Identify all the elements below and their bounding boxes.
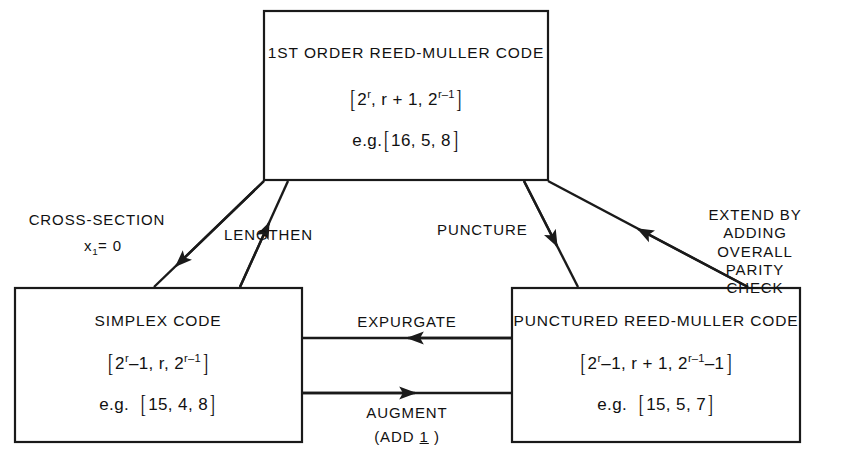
br-example-values: 15, 5, 7 <box>646 395 706 414</box>
lengthen-label: LENGTHEN <box>224 226 313 243</box>
bottom-right-box-title: PUNCTURED REED-MULLER CODE <box>513 312 798 330</box>
top-param-exp-d: r–1 <box>438 88 455 100</box>
top-example-values: 16, 5, 8 <box>391 131 451 150</box>
extend-parity-label: EXTEND BY ADDING OVERALL PARITY CHECK <box>708 206 803 297</box>
br-param-suffix-n: –1 <box>601 354 621 373</box>
cross-section-equality: = 0 <box>98 237 122 254</box>
top-box-parameters: [2r, r + 1, 2r–1] <box>349 88 464 110</box>
cross-section-label-line1: CROSS-SECTION <box>29 211 166 228</box>
top-param-base-n: 2 <box>357 90 367 109</box>
top-box-example: e.g.[16, 5, 8] <box>352 131 459 151</box>
expurgate-label: EXPURGATE <box>357 313 457 330</box>
bl-param-exp-d: r–1 <box>184 352 201 364</box>
br-param-base-n: 2 <box>588 354 598 373</box>
br-example-label: e.g. <box>597 395 627 414</box>
bottom-left-box-example: e.g. [15, 4, 8] <box>99 395 217 415</box>
top-box-title: 1ST ORDER REED-MULLER CODE <box>268 44 544 62</box>
top-param-base-d: 2 <box>428 90 438 109</box>
augment-allones-vector: 1 <box>420 428 429 445</box>
bottom-right-box-parameters: [2r–1, r + 1, 2r–1–1] <box>579 352 733 374</box>
br-param-middle: , r + 1, <box>621 354 678 373</box>
top-param-middle: , r + 1, <box>371 90 428 109</box>
bottom-left-box-title: SIMPLEX CODE <box>94 312 221 330</box>
bl-example-values: 15, 4, 8 <box>148 395 208 414</box>
augment-sublabel-suffix: ) <box>429 428 440 445</box>
top-example-label: e.g. <box>352 131 382 150</box>
br-param-exp-d: r–1 <box>688 352 705 364</box>
puncture-label: PUNCTURE <box>437 221 528 238</box>
br-param-base-d: 2 <box>678 354 688 373</box>
reed-muller-relationship-diagram: 1ST ORDER REED-MULLER CODE [2r, r + 1, 2… <box>0 0 850 461</box>
bl-param-base-n: 2 <box>115 354 125 373</box>
augment-label: AUGMENT <box>366 404 447 421</box>
bottom-left-box-parameters: [2r–1, r, 2r–1] <box>106 352 209 374</box>
cross-section-label-line2: x1= 0 <box>84 237 122 257</box>
br-param-suffix-d: –1 <box>705 354 725 373</box>
bl-param-suffix-n: –1 <box>129 354 149 373</box>
bl-param-base-d: 2 <box>174 354 184 373</box>
augment-sublabel: (ADD 1 ) <box>374 428 440 445</box>
bl-param-middle: , r, <box>149 354 175 373</box>
puncture-edge <box>524 181 578 287</box>
bottom-right-box-example: e.g. [15, 5, 7] <box>597 395 715 415</box>
augment-sublabel-prefix: (ADD <box>374 428 419 445</box>
bl-example-label: e.g. <box>99 395 129 414</box>
